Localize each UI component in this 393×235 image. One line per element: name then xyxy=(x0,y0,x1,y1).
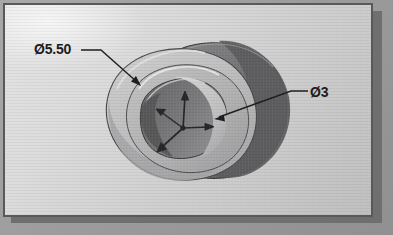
cad-model-graphic[interactable] xyxy=(5,5,371,215)
outer-diameter-label: Ø5.50 xyxy=(34,41,71,57)
x-axis-line xyxy=(183,127,208,128)
screenshot-root: Ø5.50 Ø3 xyxy=(0,0,393,235)
cad-viewport-frame[interactable]: Ø5.50 Ø3 xyxy=(3,3,373,217)
bore-diameter-label: Ø3 xyxy=(310,84,328,100)
